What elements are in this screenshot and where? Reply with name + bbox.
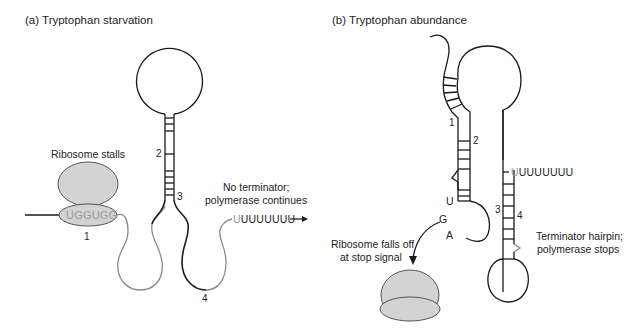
- u-tract-a: UUUUUUUU: [233, 213, 295, 225]
- trp-codons-label: UGGUGG: [66, 209, 117, 221]
- terminator-loop: [488, 259, 528, 302]
- region-1-2-linker: [117, 206, 165, 290]
- u-tract-rest-b: UUUUUUU: [519, 166, 573, 178]
- ribosome-falloff-arrow: [413, 222, 440, 258]
- stop-codon-u: U: [446, 195, 454, 207]
- stop-codon-loop: [466, 201, 489, 241]
- terminator-hairpin-note-line1: Terminator hairpin;: [536, 230, 623, 242]
- stop-codon-a: A: [446, 229, 453, 241]
- stop-codon-g: G: [439, 213, 447, 225]
- region-3-label-a: 3: [177, 191, 183, 203]
- region-4-label-b: 4: [517, 210, 523, 222]
- panel-b-diagram: [380, 35, 528, 321]
- region-4-tail: [206, 219, 232, 290]
- region-1-label-a: 1: [84, 231, 90, 243]
- base-pair-rungs-3-4: [503, 184, 514, 239]
- region-3-label-b: 3: [495, 204, 501, 216]
- no-terminator-note-line2: polymerase continues: [205, 194, 307, 206]
- ribosome-small-subunit-released: [380, 297, 440, 321]
- region-2-strand: [457, 78, 470, 190]
- ribosome-falls-note-line1: Ribosome falls off: [331, 238, 414, 250]
- ribosome-falls-note-line2: at stop signal: [340, 251, 402, 263]
- u-tract-first-b: U: [511, 166, 519, 178]
- base-pair-rungs-1-2-stem: [458, 141, 470, 201]
- base-pair-rungs-2-3: [165, 118, 174, 195]
- panel-a-title: (a) Tryptophan starvation: [25, 14, 153, 26]
- terminator-hairpin-note-line2: polymerase stops: [537, 243, 619, 255]
- region-3-4-linker: [174, 200, 206, 290]
- base-pair-rungs-1-2-curve: [443, 77, 462, 109]
- attenuation-diagram: [0, 0, 637, 329]
- panel-b-title: (b) Tryptophan abundance: [332, 14, 467, 26]
- hairpin-loop-top-b: [458, 46, 521, 160]
- u-tract-b: UUUUUUUU: [511, 166, 573, 178]
- panel-a-diagram: [25, 48, 308, 290]
- ribosome-large-subunit: [58, 162, 118, 206]
- region-2-label-b: 2: [473, 135, 479, 147]
- ribosome-stalls-label: Ribosome stalls: [51, 148, 125, 160]
- arrow-right-icon: [302, 216, 308, 222]
- hairpin-loop-2-3: [137, 48, 203, 114]
- region-2-label-a: 2: [156, 148, 162, 160]
- u-tract-rest-a: UUUUUUU: [241, 213, 295, 225]
- mrna-5prime-tail: [430, 35, 449, 76]
- region-1-label-b: 1: [449, 117, 455, 129]
- arrow-down-icon: [409, 256, 417, 265]
- no-terminator-note-line1: No terminator;: [223, 181, 290, 193]
- bulge-right: [514, 244, 520, 252]
- bulge-left: [452, 170, 458, 182]
- region-4-label-a: 4: [202, 293, 208, 305]
- u-tract-first-a: U: [233, 213, 241, 225]
